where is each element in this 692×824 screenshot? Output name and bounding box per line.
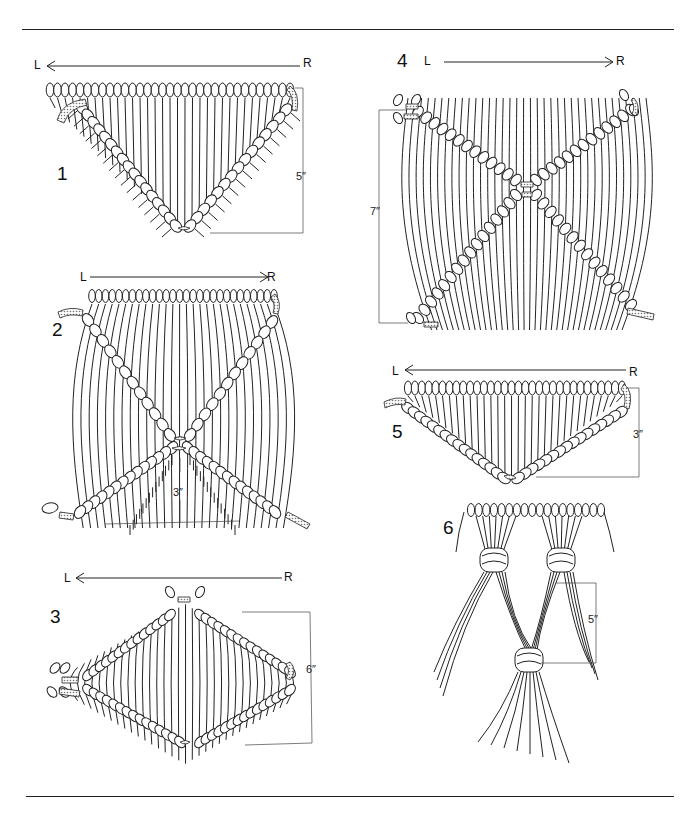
direction-right-label: R bbox=[267, 270, 276, 284]
figure-3: L R 3 6″ bbox=[0, 550, 346, 800]
figure-number: 2 bbox=[52, 319, 63, 341]
figure-number: 3 bbox=[50, 606, 61, 628]
direction-left-label: L bbox=[424, 54, 431, 68]
direction-left-label: L bbox=[392, 364, 399, 378]
measurement-label: 7″ bbox=[370, 205, 380, 217]
figure-1: L R 1 5″ bbox=[0, 0, 346, 260]
measurement-label: 5″ bbox=[296, 170, 306, 182]
figure-6-drawing bbox=[346, 500, 692, 800]
figure-1-drawing bbox=[0, 0, 346, 260]
figure-number: 1 bbox=[57, 163, 68, 185]
measurement-label: 3″ bbox=[633, 428, 643, 440]
figure-number: 4 bbox=[397, 50, 408, 72]
direction-right-label: R bbox=[616, 54, 625, 68]
figure-6: 6 5″ bbox=[346, 500, 692, 800]
direction-right-label: R bbox=[284, 570, 293, 584]
figure-4: 4 L R 7″ bbox=[346, 0, 692, 340]
measurement-label: 3″ bbox=[173, 486, 183, 498]
measurement-label: 6″ bbox=[306, 663, 316, 675]
figure-2: L R 2 3″ bbox=[0, 250, 346, 550]
direction-left-label: L bbox=[34, 58, 41, 72]
direction-right-label: R bbox=[629, 365, 638, 379]
figure-3-drawing bbox=[0, 550, 346, 800]
figure-2-drawing bbox=[0, 250, 346, 550]
figure-number: 6 bbox=[443, 517, 454, 539]
direction-right-label: R bbox=[303, 56, 312, 70]
measurement-label: 5″ bbox=[588, 613, 598, 625]
direction-left-label: L bbox=[64, 571, 71, 585]
direction-left-label: L bbox=[80, 270, 87, 284]
figure-number: 5 bbox=[392, 421, 403, 443]
